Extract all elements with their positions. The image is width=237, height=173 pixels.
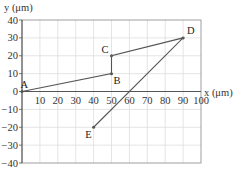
y-tick-label: 0	[13, 86, 18, 97]
x-tick-label: 30	[70, 95, 81, 106]
y-tick-label: 30	[8, 32, 19, 43]
y-tick-label: 10	[8, 68, 19, 79]
y-tick-label: −10	[2, 104, 18, 115]
point-c-label: C	[101, 44, 108, 55]
x-tick-label: 70	[142, 95, 153, 106]
point-d-label: D	[187, 25, 195, 36]
y-tick-label: 20	[8, 50, 19, 61]
x-tick-labels: 102030405060708090100	[35, 95, 209, 106]
x-tick-label: 90	[178, 95, 189, 106]
displacement-chart: 102030405060708090100 403020100−10−20−30…	[0, 0, 237, 173]
point-a-label: A	[20, 79, 28, 90]
point-c-marker	[110, 54, 113, 57]
point-a-marker	[21, 90, 24, 93]
x-tick-label: 10	[35, 95, 46, 106]
x-tick-label: 20	[53, 95, 64, 106]
x-tick-label: 50	[106, 95, 117, 106]
y-tick-label: −20	[2, 122, 18, 133]
x-tick-label: 80	[160, 95, 171, 106]
point-d-marker	[182, 36, 185, 39]
y-axis-title: y (μm)	[4, 2, 33, 14]
x-tick-label: 40	[88, 95, 99, 106]
y-tick-label: 40	[8, 15, 19, 26]
y-tick-label: −30	[2, 140, 18, 151]
point-e-label: E	[85, 129, 91, 140]
y-tick-label: −40	[2, 158, 18, 169]
x-tick-label: 60	[124, 95, 135, 106]
point-e-marker	[92, 126, 95, 129]
point-b-label: B	[114, 75, 121, 86]
point-markers: ABCDE	[20, 25, 195, 140]
x-axis-title: x (μm)	[204, 87, 233, 99]
y-tick-labels: 403020100−10−20−30−40	[2, 15, 22, 169]
